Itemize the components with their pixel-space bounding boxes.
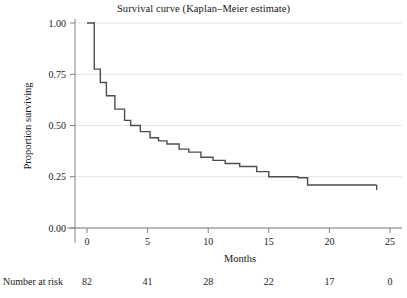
risk-table-label: Number at risk xyxy=(3,276,63,287)
x-axis-ticks: 0510152025 xyxy=(85,228,396,247)
x-tick-label: 0 xyxy=(85,236,90,247)
y-tick-label: 0.75 xyxy=(49,69,67,80)
y-tick-label: 1.00 xyxy=(49,18,67,29)
x-tick-label: 25 xyxy=(385,236,395,247)
gridlines xyxy=(75,23,402,228)
risk-count: 41 xyxy=(143,276,153,287)
y-tick-label: 0.00 xyxy=(49,223,67,234)
y-axis-title: Proportion surviving xyxy=(22,82,33,170)
risk-count: 28 xyxy=(203,276,213,287)
risk-count: 82 xyxy=(82,276,92,287)
kaplan-meier-plot: 0.000.250.500.751.00 0510152025 Proporti… xyxy=(0,0,407,298)
x-tick-label: 20 xyxy=(324,236,334,247)
y-tick-label: 0.50 xyxy=(49,120,67,131)
survival-step-path xyxy=(87,23,377,185)
risk-count: 0 xyxy=(388,276,393,287)
x-tick-label: 15 xyxy=(264,236,274,247)
x-tick-label: 10 xyxy=(203,236,213,247)
risk-count: 22 xyxy=(264,276,274,287)
x-axis-title: Months xyxy=(224,253,256,264)
risk-count: 17 xyxy=(324,276,334,287)
risk-table-counts: 82412822170 xyxy=(82,276,393,287)
x-tick-label: 5 xyxy=(145,236,150,247)
y-tick-label: 0.25 xyxy=(49,171,67,182)
y-axis-ticks: 0.000.250.500.751.00 xyxy=(49,18,76,234)
survival-curve-line xyxy=(87,23,377,190)
survival-curve-figure: Survival curve (Kaplan–Meier estimate) 0… xyxy=(0,0,407,298)
